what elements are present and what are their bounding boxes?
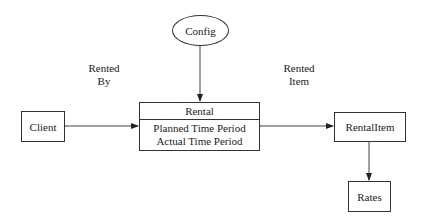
edge-label-rented-item-line2: Item — [279, 75, 319, 88]
edge-label-rented-by-line1: Rented — [84, 62, 124, 75]
node-rental-item: RentalItem — [334, 112, 406, 142]
edge-label-rented-item-line1: Rented — [279, 62, 319, 75]
node-client: Client — [21, 111, 65, 142]
edge-label-rented-by: Rented By — [84, 62, 124, 88]
node-rental-item-label: RentalItem — [346, 121, 395, 133]
rental-attribute: Actual Time Period — [140, 135, 259, 148]
node-rates-label: Rates — [357, 191, 381, 203]
node-config-label: Config — [185, 25, 216, 37]
node-rental: Rental Planned Time Period Actual Time P… — [139, 102, 260, 151]
node-client-label: Client — [30, 121, 57, 133]
edge-label-rented-item: Rented Item — [279, 62, 319, 88]
node-rates: Rates — [348, 181, 391, 212]
rental-attribute: Planned Time Period — [140, 122, 259, 135]
node-rental-attributes: Planned Time Period Actual Time Period — [140, 120, 259, 148]
node-rental-title: Rental — [140, 103, 259, 120]
edge-label-rented-by-line2: By — [84, 75, 124, 88]
node-config: Config — [172, 15, 229, 46]
